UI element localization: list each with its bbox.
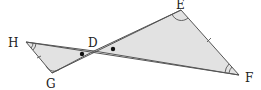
angle-dot-left <box>80 52 84 56</box>
label-H: H <box>8 36 18 50</box>
label-D: D <box>88 36 98 50</box>
label-F: F <box>245 71 253 85</box>
angle-dot-right <box>111 47 115 51</box>
label-E: E <box>176 0 185 12</box>
geometry-figure: H G D E F <box>0 0 261 90</box>
triangle-DEF <box>94 10 239 75</box>
label-G: G <box>46 77 56 90</box>
